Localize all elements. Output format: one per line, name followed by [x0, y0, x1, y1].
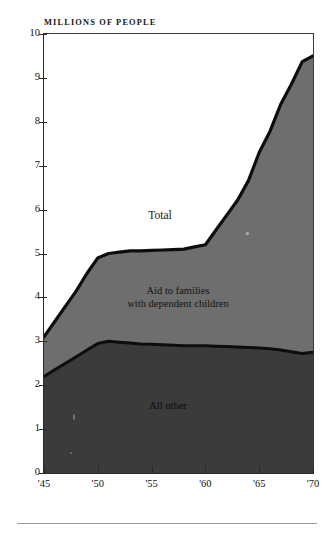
- y-tick-label: 6: [18, 203, 40, 214]
- y-tick-mark: [39, 78, 47, 79]
- y-tick-label: 1: [18, 422, 40, 433]
- x-tick-label: '65: [253, 478, 265, 489]
- band-aid-to-families: [44, 56, 313, 376]
- x-tick-label: '45: [38, 478, 50, 489]
- y-tick-label: 4: [18, 290, 40, 301]
- y-tick-label: 5: [18, 247, 40, 258]
- y-tick-mark: [39, 210, 47, 211]
- series-label-afdc-line1: Aid to families: [127, 284, 228, 297]
- x-tick-label: '70: [307, 478, 319, 489]
- y-tick-mark: [39, 297, 47, 298]
- y-tick-label: 8: [18, 115, 40, 126]
- footer-rule: [17, 523, 317, 524]
- cropped-top-caption: [116, 0, 326, 7]
- series-label-total: Total: [148, 208, 171, 222]
- axis-right-rule: [313, 33, 314, 474]
- y-tick-mark: [39, 34, 47, 35]
- y-tick-label: 2: [18, 378, 40, 389]
- x-tick-label: '60: [199, 478, 211, 489]
- series-label-afdc: Aid to families with dependent children: [127, 284, 228, 310]
- y-tick-mark: [39, 473, 47, 474]
- series-label-total-text: Total: [148, 208, 171, 222]
- x-axis-line: [43, 473, 314, 474]
- y-tick-label: 3: [18, 334, 40, 345]
- y-tick-mark: [39, 385, 47, 386]
- chart-figure: MILLIONS OF PEOPLE 012345678910 '45'50'5…: [0, 0, 334, 538]
- x-tick-mark: [152, 466, 153, 474]
- axis-top-rule: [43, 33, 314, 34]
- x-tick-mark: [44, 466, 45, 474]
- scan-speck: [246, 232, 249, 235]
- y-axis-ticks: 012345678910: [0, 0, 40, 538]
- y-tick-label: 9: [18, 71, 40, 82]
- y-tick-label: 7: [18, 159, 40, 170]
- scan-speck: [73, 414, 75, 420]
- y-tick-mark: [39, 429, 47, 430]
- x-tick-mark: [313, 466, 314, 474]
- x-tick-label: '50: [92, 478, 104, 489]
- y-tick-mark: [39, 166, 47, 167]
- x-tick-mark: [205, 466, 206, 474]
- y-tick-label: 10: [18, 27, 40, 38]
- y-axis-unit-label: MILLIONS OF PEOPLE: [44, 18, 157, 27]
- y-tick-label: 0: [18, 466, 40, 477]
- scan-speck: [70, 452, 72, 454]
- y-tick-mark: [39, 122, 47, 123]
- series-label-all-other: All other: [149, 399, 187, 412]
- series-label-afdc-line2: with dependent children: [127, 297, 228, 310]
- x-tick-label: '55: [145, 478, 157, 489]
- x-tick-mark: [98, 466, 99, 474]
- y-tick-mark: [39, 341, 47, 342]
- x-tick-mark: [259, 466, 260, 474]
- y-tick-mark: [39, 254, 47, 255]
- series-label-all-other-text: All other: [149, 399, 187, 412]
